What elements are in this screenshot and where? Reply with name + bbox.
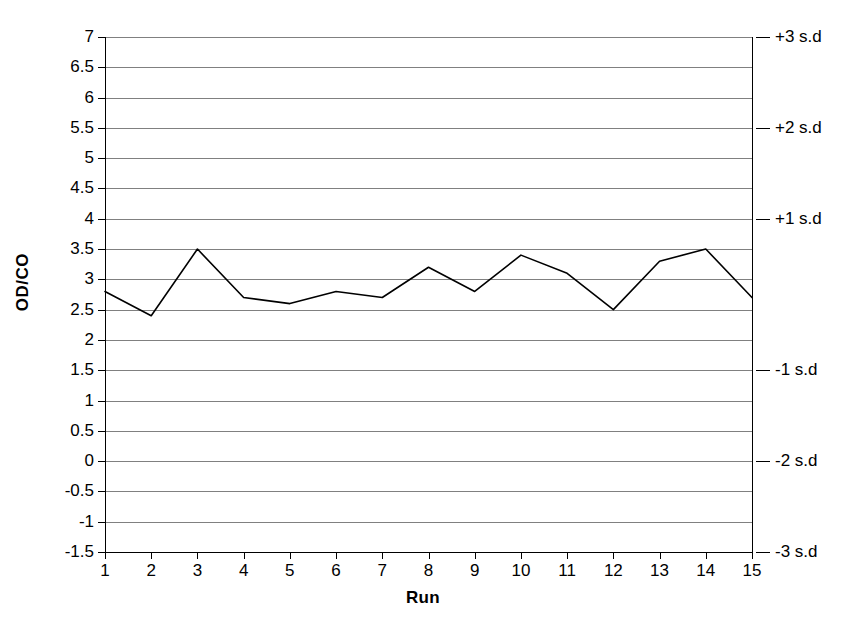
x-axis-tick	[567, 553, 568, 559]
y-axis-tick	[98, 491, 105, 492]
gridline	[105, 219, 752, 220]
y-axis-tick	[98, 522, 105, 523]
y-axis-tick	[98, 98, 105, 99]
y-axis-tick-label: -1	[30, 513, 94, 530]
sd-axis-tick-label: -2 s.d	[775, 452, 818, 469]
plot-area	[105, 37, 752, 552]
gridline	[105, 340, 752, 341]
y-axis-tick	[98, 158, 105, 159]
x-axis-tick-label: 6	[316, 562, 356, 579]
x-axis-tick-label: 1	[85, 562, 125, 579]
x-axis-tick-label: 2	[131, 562, 171, 579]
y-axis-tick-label: 3.5	[30, 240, 94, 257]
x-axis-tick-label: 13	[640, 562, 680, 579]
gridline	[105, 431, 752, 432]
y-axis-tick	[98, 188, 105, 189]
gridline	[105, 310, 752, 311]
gridline	[105, 128, 752, 129]
y-axis-tick-label: 2	[30, 331, 94, 348]
gridline	[105, 249, 752, 250]
gridline	[105, 37, 752, 38]
y-axis-tick	[98, 401, 105, 402]
y-axis-tick	[98, 461, 105, 462]
y-axis-tick-label: 0.5	[30, 422, 94, 439]
sd-axis-tick	[756, 128, 770, 129]
y-axis-tick	[98, 310, 105, 311]
y-axis-tick	[98, 370, 105, 371]
y-axis-tick-label: 6	[30, 89, 94, 106]
gridline	[105, 461, 752, 462]
x-axis-tick	[660, 553, 661, 559]
x-axis-tick	[429, 553, 430, 559]
levey-jennings-chart: 76.565.554.543.532.521.510.50-0.5-1-1.5 …	[0, 0, 846, 625]
y-axis-tick	[98, 128, 105, 129]
x-axis-tick	[151, 553, 152, 559]
y-axis-title: OD/CO	[13, 237, 33, 327]
sd-axis-tick	[756, 461, 770, 462]
x-axis-tick-label: 9	[455, 562, 495, 579]
x-axis-tick-label: 5	[270, 562, 310, 579]
sd-axis-tick-label: +2 s.d	[775, 119, 822, 136]
x-axis-tick-label: 10	[501, 562, 541, 579]
sd-axis-tick-label: +3 s.d	[775, 28, 822, 45]
sd-axis-tick	[756, 370, 770, 371]
y-axis-tick-label: 4	[30, 210, 94, 227]
y-axis-tick-label: 1.5	[30, 361, 94, 378]
y-axis-tick-label: 3	[30, 270, 94, 287]
y-axis-tick	[98, 219, 105, 220]
y-axis-tick	[98, 431, 105, 432]
y-axis-tick-label: 6.5	[30, 58, 94, 75]
x-axis-tick-label: 11	[547, 562, 587, 579]
x-axis-tick	[197, 553, 198, 559]
y-axis-tick-label: 0	[30, 452, 94, 469]
gridline	[105, 279, 752, 280]
y-axis-tick-label: 1	[30, 392, 94, 409]
sd-axis-tick-label: -1 s.d	[775, 361, 818, 378]
y-axis-tick-label: 5.5	[30, 119, 94, 136]
x-axis-tick-label: 12	[593, 562, 633, 579]
sd-axis-tick-label: -3 s.d	[775, 543, 818, 560]
y-axis-tick-label: 5	[30, 149, 94, 166]
x-axis-tick	[336, 553, 337, 559]
x-axis-tick	[706, 553, 707, 559]
y-axis-tick-label: -1.5	[30, 543, 94, 560]
sd-axis-tick	[756, 219, 770, 220]
x-axis-tick-label: 8	[409, 562, 449, 579]
y-axis-tick	[98, 37, 105, 38]
gridline	[105, 401, 752, 402]
y-axis-tick-label: 7	[30, 28, 94, 45]
gridline	[105, 67, 752, 68]
x-axis-tick-label: 4	[224, 562, 264, 579]
y-axis-tick	[98, 249, 105, 250]
y-axis-tick	[98, 552, 105, 553]
x-axis-tick	[613, 553, 614, 559]
y-axis-tick-label: 2.5	[30, 301, 94, 318]
x-axis-tick-label: 7	[362, 562, 402, 579]
x-axis-tick-label: 14	[686, 562, 726, 579]
y-axis-tick	[98, 67, 105, 68]
x-axis-tick	[244, 553, 245, 559]
sd-axis-tick	[756, 37, 770, 38]
gridline	[105, 370, 752, 371]
gridline	[105, 158, 752, 159]
y-axis-tick	[98, 279, 105, 280]
x-axis-tick	[752, 553, 753, 559]
y-axis-tick-label: -0.5	[30, 482, 94, 499]
gridline	[105, 522, 752, 523]
gridline	[105, 491, 752, 492]
x-axis-tick	[290, 553, 291, 559]
gridline	[105, 188, 752, 189]
x-axis-title: Run	[0, 588, 846, 608]
x-axis-tick	[105, 553, 106, 559]
sd-axis-tick	[756, 552, 770, 553]
x-axis-tick-label: 3	[177, 562, 217, 579]
secondary-axis-line	[752, 37, 753, 553]
gridline	[105, 98, 752, 99]
x-axis-tick	[475, 553, 476, 559]
x-axis-tick	[382, 553, 383, 559]
sd-axis-tick-label: +1 s.d	[775, 210, 822, 227]
y-axis-line	[105, 37, 106, 553]
x-axis-tick-label: 15	[732, 562, 772, 579]
x-axis-tick	[521, 553, 522, 559]
y-axis-tick	[98, 340, 105, 341]
